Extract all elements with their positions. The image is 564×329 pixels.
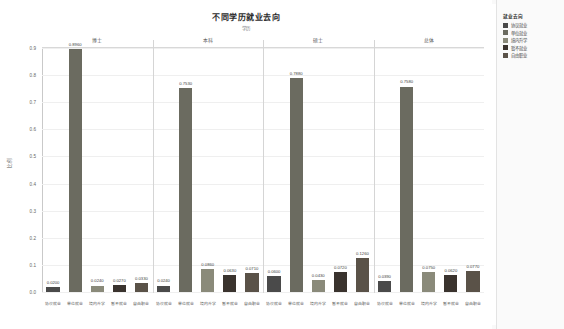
y-axis-tick-label: 0.1 <box>14 262 36 267</box>
legend-title: 就业去向 <box>503 13 523 19</box>
y-axis-tick-label: 0.3 <box>14 208 36 213</box>
bar[interactable] <box>91 286 104 293</box>
bar[interactable] <box>378 281 391 292</box>
legend-panel: 就业去向 协议就业单位就业境内升学暂不就业自由职业 <box>496 0 564 329</box>
x-axis-category-label: 自由职业 <box>133 300 149 306</box>
bar-value-label: 0.0750 <box>422 265 435 270</box>
x-axis-category-label: 单位就业 <box>399 300 415 306</box>
legend-item-label: 单位就业 <box>511 30 527 36</box>
group-header: 博士 <box>92 36 102 43</box>
x-axis-category-label: 自由职业 <box>354 300 370 306</box>
bar-value-label: 0.7880 <box>290 71 303 76</box>
x-axis-category-label: 自由职业 <box>244 300 260 306</box>
x-axis-category-label: 暂不就业 <box>332 300 348 306</box>
legend-swatch-icon <box>503 23 508 28</box>
bar[interactable] <box>135 283 148 292</box>
bar-value-label: 0.0390 <box>378 274 391 279</box>
y-axis-tick-label: 0.4 <box>14 181 36 186</box>
bar[interactable] <box>223 275 236 292</box>
x-axis-category-label: 境内升学 <box>200 300 216 306</box>
bar-value-label: 0.0430 <box>312 273 325 278</box>
bar[interactable] <box>444 275 457 292</box>
bar[interactable] <box>422 272 435 292</box>
legend-item[interactable]: 暂不就业 <box>503 45 527 51</box>
x-axis-category-label: 自由职业 <box>465 300 481 306</box>
y-axis-tick-label: 0.7 <box>14 100 36 105</box>
legend-swatch-icon <box>503 38 508 43</box>
x-axis-category-label: 暂不就业 <box>222 300 238 306</box>
group-header: 硕士 <box>313 36 323 43</box>
legend-item[interactable]: 协议就业 <box>503 22 527 28</box>
bar-value-label: 0.0200 <box>47 280 60 285</box>
bar[interactable] <box>179 88 192 292</box>
legend-item[interactable]: 单位就业 <box>503 30 527 36</box>
x-axis-category-label: 暂不就业 <box>111 300 127 306</box>
legend-swatch-icon <box>503 53 508 58</box>
bar-value-label: 0.7580 <box>400 79 413 84</box>
x-axis-category-label: 境内升学 <box>89 300 105 306</box>
x-axis-category-label: 协议就业 <box>45 300 61 306</box>
bar[interactable] <box>267 276 280 292</box>
legend-item[interactable]: 境内升学 <box>503 37 527 43</box>
bar[interactable] <box>400 87 413 293</box>
bar[interactable] <box>113 285 126 292</box>
bar-value-label: 0.0600 <box>268 269 281 274</box>
bar-value-label: 0.0240 <box>91 278 104 283</box>
group-separator <box>153 40 154 293</box>
bar-value-label: 0.0770 <box>467 264 480 269</box>
chart-panel: 不同学历就业去向 学历 比例 0.00.10.20.30.40.50.60.70… <box>0 0 492 329</box>
bar-value-label: 0.0270 <box>113 278 126 283</box>
x-axis-category-label: 单位就业 <box>178 300 194 306</box>
x-axis-category-label: 单位就业 <box>288 300 304 306</box>
x-axis-category-label: 协议就业 <box>266 300 282 306</box>
x-axis-category-label: 协议就业 <box>377 300 393 306</box>
group-separator <box>374 40 375 293</box>
bar[interactable] <box>201 269 214 292</box>
y-axis-label: 比例 <box>6 158 12 168</box>
legend-item[interactable]: 自由职业 <box>503 52 527 58</box>
x-axis-category-label: 境内升学 <box>421 300 437 306</box>
y-axis-tick-label: 0.9 <box>14 46 36 51</box>
bar-value-label: 0.7530 <box>179 81 192 86</box>
bar[interactable] <box>245 273 258 292</box>
x-axis-category-label: 暂不就业 <box>443 300 459 306</box>
bar[interactable] <box>334 272 347 292</box>
x-axis-category-label: 单位就业 <box>67 300 83 306</box>
chart-title: 不同学历就业去向 <box>0 11 492 22</box>
bar-value-label: 0.8960 <box>69 42 82 47</box>
x-axis-category-label: 境内升学 <box>310 300 326 306</box>
legend-item-label: 自由职业 <box>511 52 527 58</box>
bar[interactable] <box>290 78 303 292</box>
chart-subtitle: 学历 <box>0 25 492 31</box>
y-axis-tick-label: 0.6 <box>14 127 36 132</box>
bar-value-label: 0.0860 <box>201 262 214 267</box>
bar[interactable] <box>69 49 82 292</box>
y-axis-tick-label: 0.0 <box>14 290 36 295</box>
bar[interactable] <box>466 271 479 292</box>
bar-value-label: 0.0330 <box>135 276 148 281</box>
bar[interactable] <box>157 286 170 293</box>
bar-value-label: 0.1260 <box>356 251 369 256</box>
bar-value-label: 0.0710 <box>246 266 259 271</box>
legend-item-label: 暂不就业 <box>511 45 527 51</box>
bar[interactable] <box>356 258 369 292</box>
bar-value-label: 0.0620 <box>444 268 457 273</box>
bar[interactable] <box>312 280 325 292</box>
bar-value-label: 0.0240 <box>157 278 170 283</box>
y-axis-tick-label: 0.2 <box>14 235 36 240</box>
legend-swatch-icon <box>503 30 508 35</box>
y-axis-tick-label: 0.5 <box>14 154 36 159</box>
legend-item-label: 协议就业 <box>511 22 527 28</box>
legend-swatch-icon <box>503 45 508 50</box>
bar-value-label: 0.0630 <box>223 268 236 273</box>
group-separator <box>263 40 264 293</box>
y-axis-tick-label: 0.8 <box>14 73 36 78</box>
group-header: 总体 <box>424 36 434 43</box>
bar[interactable] <box>46 287 59 292</box>
legend-item-label: 境内升学 <box>511 37 527 43</box>
group-header: 本科 <box>203 36 213 43</box>
bar-value-label: 0.0720 <box>334 265 347 270</box>
x-axis-category-label: 协议就业 <box>156 300 172 306</box>
